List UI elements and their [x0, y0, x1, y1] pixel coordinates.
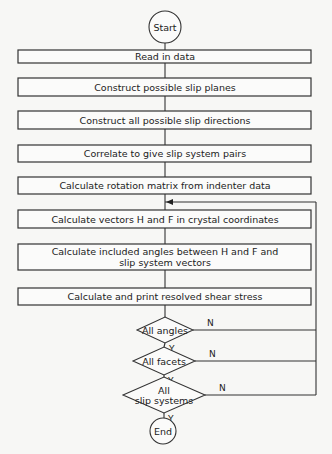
- no-label: N: [219, 383, 226, 393]
- process-label: Construct all possible slip directions: [80, 115, 251, 126]
- arrowhead-icon: [166, 199, 173, 205]
- process-label: Calculate and print resolved shear stres…: [68, 291, 263, 302]
- process-label: Correlate to give slip system pairs: [84, 148, 247, 159]
- flowchart: StartRead in dataConstruct possible slip…: [0, 0, 332, 454]
- process-label: Read in data: [135, 51, 195, 62]
- yes-connector: [164, 343, 165, 347]
- process-label: Calculate rotation matrix from indenter …: [59, 180, 270, 191]
- no-label: N: [207, 318, 214, 328]
- decision-label: All facets: [142, 356, 186, 367]
- process-label: Calculate included angles between H and …: [52, 246, 279, 257]
- process-label: Calculate vectors H and F in crystal coo…: [51, 214, 278, 225]
- no-label: N: [209, 349, 216, 359]
- process-label: Construct possible slip planes: [94, 82, 236, 93]
- end-label: End: [154, 426, 172, 437]
- process-label: slip system vectors: [119, 257, 211, 268]
- decision-label: All angles: [142, 325, 188, 336]
- start-label: Start: [153, 22, 176, 33]
- decision-label: slip systems: [135, 395, 194, 406]
